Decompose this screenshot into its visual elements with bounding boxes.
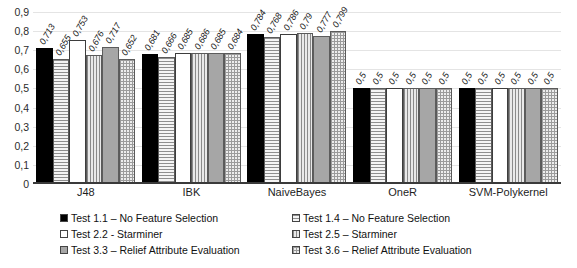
bar-value-label: 0,786: [281, 8, 301, 32]
bar: 0,681: [142, 54, 159, 184]
bar-group: 0,7840,7680,7860,790,7770,799: [244, 12, 350, 184]
bar-value-label: 0,686: [192, 27, 212, 51]
legend-item: Test 2.2 - Starminer: [60, 228, 292, 240]
legend-item: Test 1.4 – No Feature Selection: [292, 212, 530, 224]
bar: 0,685: [208, 53, 225, 184]
bar-value-label: 0,5: [403, 71, 418, 87]
bar: 0,685: [175, 53, 192, 184]
legend-swatch: [60, 214, 68, 222]
x-axis-category-label: NaiveBayes: [244, 186, 350, 206]
bar: 0,713: [36, 48, 53, 184]
bar: 0,5: [459, 88, 476, 184]
legend-item: Test 3.6 – Relief Attribute Evaluation: [292, 244, 530, 256]
legend-label: Test 2.2 - Starminer: [71, 228, 163, 240]
y-axis-tick: 0,3: [1, 121, 29, 133]
bar: 0,777: [313, 36, 330, 184]
x-axis-category-label: OneR: [350, 186, 456, 206]
y-axis-tick: 0,7: [1, 44, 29, 56]
bar: 0,684: [224, 53, 241, 184]
bar-value-label: 0,5: [492, 71, 507, 87]
bar-group: 0,6810,6660,6850,6860,6850,684: [139, 12, 245, 184]
legend-label: Test 1.4 – No Feature Selection: [303, 212, 450, 224]
bar-value-label: 0,753: [70, 14, 90, 38]
x-axis-line: [33, 182, 561, 184]
x-axis-labels: J48IBKNaiveBayesOneRSVM-Polykernel: [33, 186, 561, 206]
legend-item: Test 1.1 – No Feature Selection: [60, 212, 292, 224]
bar-group: 0,7130,6550,7530,6760,7170,652: [33, 12, 139, 184]
y-axis-tick: 0,8: [1, 25, 29, 37]
bar: 0,652: [119, 59, 136, 184]
bar-value-label: 0,5: [420, 71, 435, 87]
bar: 0,5: [386, 88, 403, 184]
bar-value-label: 0,5: [436, 71, 451, 87]
legend: Test 1.1 – No Feature SelectionTest 1.4 …: [60, 210, 530, 258]
bar: 0,655: [53, 59, 70, 184]
bar-value-label: 0,799: [331, 6, 351, 30]
bar-value-label: 0,5: [525, 71, 540, 87]
y-axis-tick: 0,5: [1, 82, 29, 94]
y-axis-tick: 0: [1, 178, 29, 190]
legend-label: Test 2.5 – Starminer: [303, 228, 397, 240]
bar-value-label: 0,684: [225, 27, 245, 51]
bar: 0,5: [419, 88, 436, 184]
legend-label: Test 3.6 – Relief Attribute Evaluation: [303, 244, 472, 256]
y-axis-tick: 0,4: [1, 102, 29, 114]
x-axis-category-label: SVM-Polykernel: [455, 186, 561, 206]
bar: 0,786: [280, 34, 297, 184]
legend-swatch: [292, 230, 300, 238]
bar: 0,5: [475, 88, 492, 184]
legend-label: Test 1.1 – No Feature Selection: [71, 212, 218, 224]
bar: 0,5: [436, 88, 453, 184]
legend-label: Test 3.3 – Relief Attribute Evaluation: [71, 244, 240, 256]
x-axis-category-label: IBK: [139, 186, 245, 206]
legend-swatch: [60, 246, 68, 254]
bar-value-label: 0,5: [354, 71, 369, 87]
bar-chart: 0,90,80,70,60,50,40,30,20,10 0,7130,6550…: [0, 0, 577, 268]
bar: 0,5: [508, 88, 525, 184]
y-axis-tick: 0,2: [1, 140, 29, 152]
legend-swatch: [292, 246, 300, 254]
y-axis: 0,90,80,70,60,50,40,30,20,10: [0, 12, 33, 184]
legend-item: Test 2.5 – Starminer: [292, 228, 530, 240]
bar: 0,5: [353, 88, 370, 184]
x-axis-category-label: J48: [33, 186, 139, 206]
plot-area: 0,7130,6550,7530,6760,7170,6520,6810,666…: [33, 12, 561, 184]
bar-value-label: 0,768: [265, 11, 285, 35]
y-axis-tick: 0,9: [1, 6, 29, 18]
bar-value-label: 0,5: [370, 71, 385, 87]
bar-value-label: 0,5: [387, 71, 402, 87]
bar: 0,5: [541, 88, 558, 184]
legend-item: Test 3.3 – Relief Attribute Evaluation: [60, 244, 292, 256]
bar-value-label: 0,713: [37, 22, 57, 46]
legend-swatch: [60, 230, 68, 238]
bar-value-label: 0,5: [509, 71, 524, 87]
bar-groups: 0,7130,6550,7530,6760,7170,6520,6810,666…: [33, 12, 561, 184]
bar: 0,666: [158, 57, 175, 184]
bar: 0,753: [69, 40, 86, 184]
bar: 0,5: [492, 88, 509, 184]
bar: 0,686: [191, 53, 208, 184]
bar: 0,5: [370, 88, 387, 184]
y-axis-tick: 0,6: [1, 63, 29, 75]
bar-value-label: 0,652: [119, 34, 139, 58]
bar: 0,784: [247, 34, 264, 184]
bar: 0,5: [525, 88, 542, 184]
bar: 0,768: [264, 37, 281, 184]
bar-group: 0,50,50,50,50,50,5: [455, 12, 561, 184]
bar-group: 0,50,50,50,50,50,5: [350, 12, 456, 184]
bar-value-label: 0,5: [459, 71, 474, 87]
bar-value-label: 0,5: [542, 71, 557, 87]
bar: 0,676: [86, 55, 103, 184]
y-axis-tick: 0,1: [1, 159, 29, 171]
bar: 0,5: [403, 88, 420, 184]
bar: 0,717: [102, 47, 119, 184]
bar: 0,79: [297, 33, 314, 184]
bar-value-label: 0,685: [175, 27, 195, 51]
bar-value-label: 0,5: [476, 71, 491, 87]
bar: 0,799: [330, 31, 347, 184]
legend-swatch: [292, 214, 300, 222]
